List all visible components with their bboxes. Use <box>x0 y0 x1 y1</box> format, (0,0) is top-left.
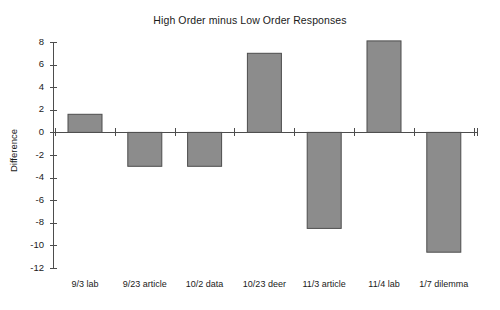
chart-axes <box>0 0 500 310</box>
y-axis-tick-label: 4 <box>14 81 44 92</box>
x-axis-tick-label: 1/7 dilemma <box>404 279 484 289</box>
y-axis-tick-label: -10 <box>14 239 44 250</box>
bar <box>247 53 281 132</box>
bar <box>68 114 102 132</box>
y-axis-tick-label: -8 <box>14 216 44 227</box>
y-axis-tick-label: -2 <box>14 149 44 160</box>
y-axis-tick-label: 6 <box>14 58 44 69</box>
y-axis-tick-label: 8 <box>14 36 44 47</box>
y-axis-tick-label: -4 <box>14 171 44 182</box>
bar <box>367 41 401 132</box>
bar <box>427 132 461 252</box>
bar <box>128 132 162 166</box>
bar <box>307 132 341 228</box>
y-axis-tick-label: -12 <box>14 262 44 273</box>
y-axis-tick-label: 2 <box>14 103 44 114</box>
bar <box>188 132 222 166</box>
bar-chart: High Order minus Low Order Responses Dif… <box>0 0 500 310</box>
y-axis-tick-label: -6 <box>14 194 44 205</box>
y-axis-tick-label: 0 <box>14 126 44 137</box>
